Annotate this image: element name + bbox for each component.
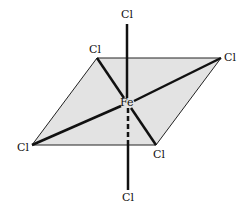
- cl-label-back-left: Cl: [89, 43, 101, 56]
- cl-label-back-right: Cl: [224, 51, 236, 64]
- cl-label-front-left: Cl: [17, 141, 29, 154]
- fecl6-diagram: Fe Cl Cl Cl Cl Cl Cl: [0, 0, 246, 219]
- cl-label-axial-top: Cl: [121, 8, 133, 21]
- fe-label: Fe: [120, 96, 134, 109]
- cl-label-front-right: Cl: [153, 148, 165, 161]
- cl-label-axial-bottom: Cl: [122, 191, 134, 204]
